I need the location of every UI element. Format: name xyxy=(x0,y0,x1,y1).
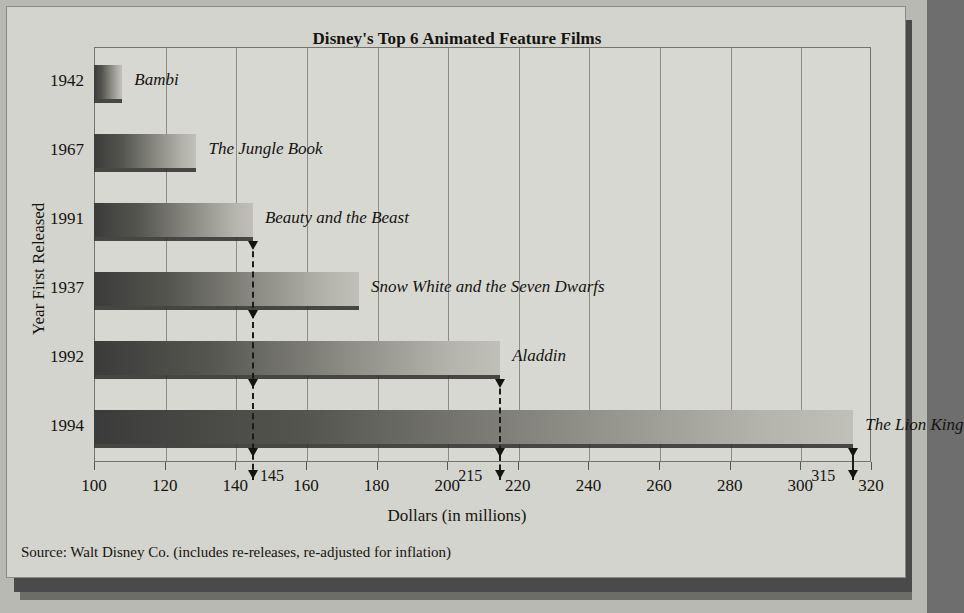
x-tick-label: 220 xyxy=(488,476,548,496)
card-bottom-shadow xyxy=(20,592,912,600)
bar-value-label: The Jungle Book xyxy=(208,139,322,159)
gridline xyxy=(589,48,590,461)
reference-line xyxy=(252,241,254,480)
x-tick-label: 160 xyxy=(276,476,336,496)
bar xyxy=(94,410,853,444)
bar-value-label: The Lion King xyxy=(865,415,963,435)
gridline xyxy=(801,48,802,461)
bar xyxy=(94,272,359,306)
x-tick xyxy=(730,462,731,470)
x-tick xyxy=(377,462,378,470)
source-note: Source: Walt Disney Co. (includes re-rel… xyxy=(21,544,451,561)
reference-line xyxy=(499,379,501,480)
x-tick-label: 180 xyxy=(347,476,407,496)
x-tick xyxy=(447,462,448,470)
x-tick-label: 280 xyxy=(700,476,760,496)
gridline xyxy=(166,48,167,461)
bar xyxy=(94,65,122,99)
bar xyxy=(94,203,253,237)
bar xyxy=(94,134,196,168)
x-axis-title: Dollars (in millions) xyxy=(7,506,907,526)
x-tick xyxy=(871,462,872,470)
arrowhead-icon xyxy=(848,448,858,457)
x-tick xyxy=(659,462,660,470)
x-tick-label: 100 xyxy=(64,476,124,496)
x-tick xyxy=(235,462,236,470)
y-tick-label: 1992 xyxy=(30,347,84,367)
bar-value-label: Aladdin xyxy=(512,346,566,366)
chart-title: Disney's Top 6 Animated Feature Films xyxy=(7,29,907,49)
arrowhead-icon xyxy=(248,241,258,250)
y-tick-label: 1967 xyxy=(30,140,84,160)
gridline xyxy=(378,48,379,461)
x-tick xyxy=(588,462,589,470)
plot-area xyxy=(94,47,871,462)
x-tick xyxy=(518,462,519,470)
bar-value-label: Beauty and the Beast xyxy=(265,208,409,228)
gridline xyxy=(660,48,661,461)
x-tick-label: 140 xyxy=(205,476,265,496)
bar-value-label: Bambi xyxy=(134,70,178,90)
bar-value-label: Snow White and the Seven Dwarfs xyxy=(371,277,605,297)
arrowhead-icon xyxy=(248,310,258,319)
x-tick xyxy=(94,462,95,470)
x-tick-label: 120 xyxy=(135,476,195,496)
x-tick-label: 200 xyxy=(417,476,477,496)
gridline xyxy=(731,48,732,461)
x-tick xyxy=(306,462,307,470)
arrowhead-icon xyxy=(495,448,505,457)
gridline xyxy=(236,48,237,461)
y-tick-label: 1994 xyxy=(30,416,84,436)
x-tick-label: 320 xyxy=(841,476,901,496)
chart-card: Disney's Top 6 Animated Feature Films 19… xyxy=(6,6,906,578)
arrowhead-icon xyxy=(248,448,258,457)
gridline xyxy=(307,48,308,461)
y-tick-label: 1942 xyxy=(30,71,84,91)
arrowhead-icon xyxy=(248,379,258,388)
gridline xyxy=(519,48,520,461)
x-tick-label: 300 xyxy=(770,476,830,496)
bar xyxy=(94,341,500,375)
x-tick-label: 240 xyxy=(558,476,618,496)
y-axis-title: Year First Released xyxy=(29,202,49,334)
x-tick xyxy=(800,462,801,470)
gridline xyxy=(448,48,449,461)
x-tick-label: 260 xyxy=(629,476,689,496)
x-tick xyxy=(165,462,166,470)
arrowhead-icon xyxy=(495,379,505,388)
